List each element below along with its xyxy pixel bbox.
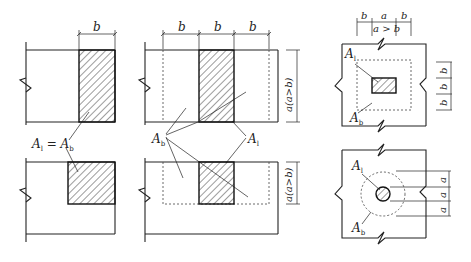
dim-bbb: b b b [161,20,271,49]
panel-right-top: b a b a > b Al Ab b b b [335,10,452,132]
dim-label: b [178,20,186,34]
dim-a-bottom: a(a>b) [283,162,300,204]
svg-text:b: b [438,68,449,74]
dim-label: b [93,20,101,34]
svg-text:b: b [361,10,367,21]
panel-middle: b b b a(a>b) Ab Al [139,20,300,242]
dim-label: b [249,20,257,34]
dim-bab: b a b a > b [357,10,411,36]
hatched-area-Al [79,50,115,122]
hatched-area-Al [68,162,115,204]
svg-text:a: a [437,192,448,198]
svg-text:Ab: Ab [349,111,364,127]
svg-text:Al: Al [344,47,357,63]
dim-a-top: a(a>b) [283,50,300,122]
wall-top-left [20,42,115,125]
svg-text:a > b: a > b [373,23,400,34]
svg-text:b: b [438,100,449,106]
local-compression-area-diagram: b Al = Ab [0,0,471,262]
svg-text:Ab: Ab [351,221,366,237]
hatched-area-Al [376,187,390,201]
svg-text:a: a [437,207,448,213]
svg-text:Al: Al [247,132,260,148]
dim-bbb-right: b b b [436,62,452,110]
wall-bottom-left [20,158,115,242]
hatched-area-Al [199,162,234,204]
dim-b-left: b [77,20,117,49]
panel-left: b Al = Ab [20,20,117,242]
svg-text:b: b [438,84,449,90]
svg-text:a(a>b): a(a>b) [283,167,294,202]
wall-bottom-middle [139,158,278,242]
hatched-area-Al [199,50,234,122]
svg-text:a(a>b): a(a>b) [283,77,294,112]
wall-top-middle [139,42,278,125]
svg-text:a: a [381,10,387,21]
svg-text:Al = Ab: Al = Ab [31,137,74,153]
svg-text:Ab: Ab [151,132,166,148]
panel-right-bottom: Al Ab a a a [335,144,451,244]
dim-label: b [214,20,222,34]
svg-text:b: b [401,10,407,21]
svg-text:a: a [437,177,448,183]
svg-text:Al: Al [351,159,364,175]
